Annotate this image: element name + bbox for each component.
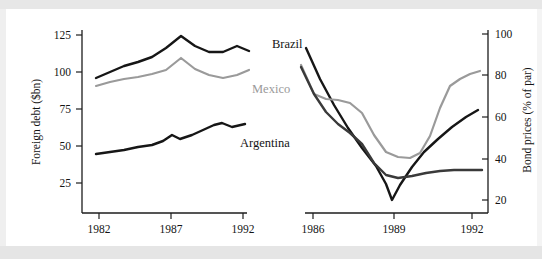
left-y-axis-title: Foreign debt ($bn) [30,79,43,165]
left-y-tick-75: 75 [60,103,72,115]
left-series-mexico [96,58,249,86]
left-x-tick-1982: 1982 [88,223,111,235]
left-series-brazil [96,36,249,78]
right-y-ticks [482,34,488,200]
left-x-ticks [99,213,243,219]
left-panel: 125 100 75 50 25 Foreign debt ($bn) 1982… [30,29,255,235]
series-label-argentina: Argentina [240,136,290,150]
left-y-tick-25: 25 [60,177,72,189]
right-y-tick-40: 40 [495,153,507,165]
right-series-mexico [301,65,480,158]
right-x-tick-1986: 1986 [302,223,325,235]
series-label-brazil: Brazil [272,37,303,51]
right-y-tick-100: 100 [495,28,513,40]
right-y-tick-20: 20 [495,194,507,206]
figure-root: 125 100 75 50 25 Foreign debt ($bn) 1982… [0,0,542,259]
left-y-tick-50: 50 [60,140,72,152]
chart-canvas: 125 100 75 50 25 Foreign debt ($bn) 1982… [0,0,542,259]
chart-area: 125 100 75 50 25 Foreign debt ($bn) 1982… [0,0,542,259]
right-y-axis-title: Bond prices (% of par) [521,67,534,173]
left-x-tick-1987: 1987 [160,223,183,235]
left-y-tick-125: 125 [54,29,72,41]
left-series-argentina [96,123,245,154]
right-x-tick-1992: 1992 [461,223,484,235]
series-label-mexico: Mexico [252,82,290,96]
right-x-tick-1989: 1989 [383,223,406,235]
right-y-tick-80: 80 [495,69,507,81]
right-panel: 100 80 60 40 20 Bond prices (% of par) 1… [301,28,534,235]
left-y-ticks [76,35,82,183]
left-x-tick-1992: 1992 [232,223,255,235]
right-y-tick-60: 60 [495,111,507,123]
left-y-tick-100: 100 [54,66,72,78]
right-x-ticks [313,213,472,219]
